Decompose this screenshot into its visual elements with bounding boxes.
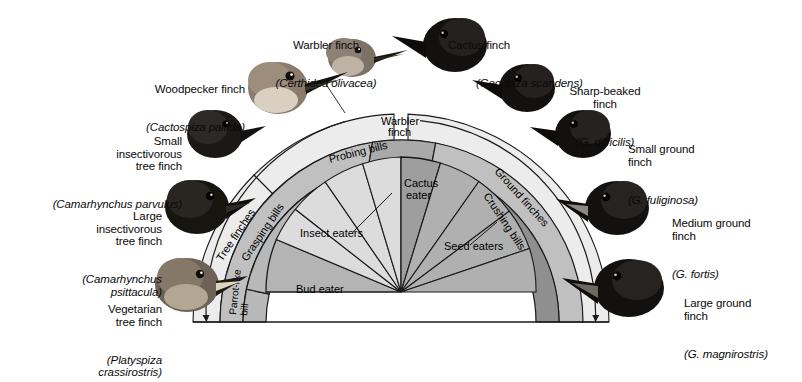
- label-bud-eater: Bud eater: [296, 283, 344, 295]
- label-warbler-finch-band-2: finch: [388, 126, 411, 138]
- species-common-small-ground-finch: Small groundfinch: [628, 143, 788, 168]
- species-label-vegetarian-tree-finch: Vegetariantree finch (Platyspizacrassiro…: [16, 278, 162, 382]
- label-insect-eaters: Insect eaters: [300, 227, 363, 239]
- species-common-small-insectivorous-tree-finch: Smallinsectivoroustree finch: [18, 135, 182, 173]
- species-common-woodpecker-finch: Woodpecker finch: [80, 83, 245, 96]
- species-common-medium-ground-finch: Medium groundfinch: [672, 217, 802, 242]
- species-common-cactus-finch: Cactus finch: [448, 39, 648, 52]
- label-cactus-eater-2: eater: [406, 189, 431, 201]
- label-parrot-like-bill-2: bill: [238, 303, 250, 316]
- species-label-large-ground-finch: Large groundfinch (G. magnirostris): [684, 272, 802, 382]
- species-common-sharp-beaked-finch: Sharp-beakedfinch: [540, 85, 670, 110]
- species-common-large-insectivorous-tree-finch: Largeinsectivoroustree finch: [16, 210, 162, 248]
- species-scientific-warbler-finch: (Certhidea olivacea): [228, 77, 424, 90]
- species-scientific-vegetarian-tree-finch: (Platyspizacrassirostris): [16, 354, 162, 379]
- label-cactus-eater-1: Cactus: [404, 177, 439, 189]
- species-common-warbler-finch: Warbler finch: [228, 39, 424, 52]
- species-label-warbler-finch: Warbler finch (Certhidea olivacea): [228, 14, 424, 115]
- species-scientific-large-ground-finch: (G. magnirostris): [684, 348, 802, 361]
- species-common-vegetarian-tree-finch: Vegetariantree finch: [16, 303, 162, 328]
- species-common-large-ground-finch: Large groundfinch: [684, 297, 802, 322]
- label-seed-eaters: Seed eaters: [444, 240, 504, 252]
